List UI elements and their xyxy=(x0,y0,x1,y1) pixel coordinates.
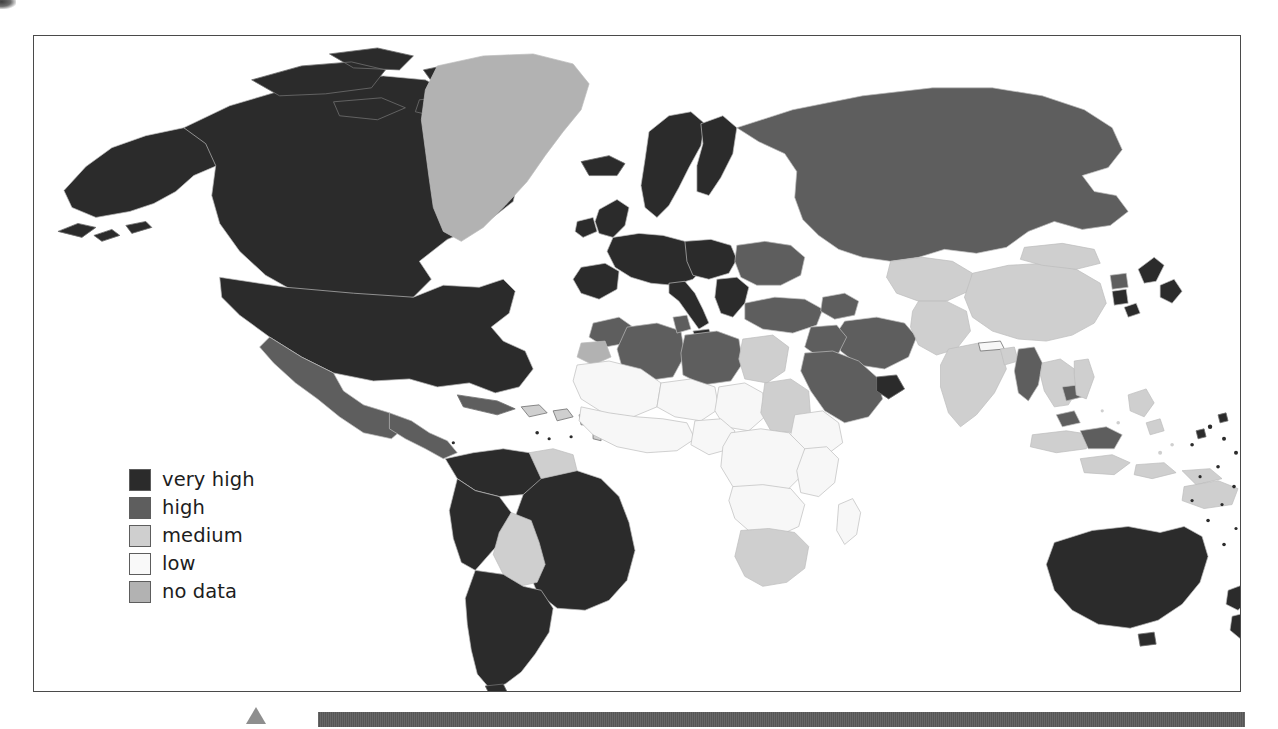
region-central-europe xyxy=(685,239,737,279)
legend-label-very-high: very high xyxy=(162,470,255,490)
legend-item-medium[interactable]: medium xyxy=(129,522,255,550)
legend-item-no-data[interactable]: no data xyxy=(129,578,255,606)
region-north-korea xyxy=(1110,273,1128,289)
legend-item-low[interactable]: low xyxy=(129,550,255,578)
legend-label-no-data: no data xyxy=(162,582,237,602)
legend-item-high[interactable]: high xyxy=(129,494,255,522)
region-south-korea xyxy=(1112,289,1128,305)
legend-item-very-high[interactable]: very high xyxy=(129,466,255,494)
legend-swatch-low xyxy=(129,553,151,575)
legend-label-medium: medium xyxy=(162,526,243,546)
caption-redacted-bar xyxy=(318,712,1245,727)
legend-label-high: high xyxy=(162,498,205,518)
map-frame: .vh{fill:#2b2b2b;} .hi{fill:#5e5e5e;} .m… xyxy=(33,35,1241,692)
map-legend: very high high medium low no data xyxy=(129,466,255,606)
legend-swatch-very-high xyxy=(129,469,151,491)
region-libya xyxy=(681,331,743,385)
caption-triangle-marker xyxy=(246,707,266,724)
legend-swatch-medium xyxy=(129,525,151,547)
region-eastern-europe xyxy=(735,241,805,285)
legend-swatch-high xyxy=(129,497,151,519)
region-tasmania xyxy=(1138,632,1156,646)
legend-label-low: low xyxy=(162,554,196,574)
legend-swatch-no-data xyxy=(129,581,151,603)
scan-corner-artifact xyxy=(0,0,16,9)
